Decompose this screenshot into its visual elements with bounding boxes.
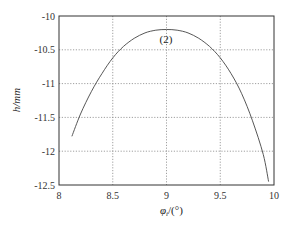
y-axis-label: h/mm: [10, 88, 22, 113]
x-tick-label: 8: [57, 190, 62, 201]
y-tick-label: -12: [42, 146, 55, 157]
x-axis-label: φi/(°): [160, 204, 183, 218]
line-chart: 88.599.510 -10-10.5-11-11.5-12-12.5 (2) …: [0, 0, 295, 229]
x-tick-label: 9.5: [214, 190, 227, 201]
y-tick-label: -11.5: [35, 112, 55, 123]
x-tick-label: 9: [164, 190, 169, 201]
data-curve: [72, 30, 269, 182]
y-tick-label: -10.5: [34, 44, 55, 55]
x-tick-label: 8.5: [107, 190, 120, 201]
y-tick-label: -12.5: [34, 180, 55, 191]
y-tick-label: -10: [42, 11, 55, 22]
y-axis-ticks: -10-10.5-11-11.5-12-12.5: [34, 11, 55, 191]
x-label-unit: /(°): [168, 204, 183, 217]
curve-annotation: (2): [160, 33, 173, 46]
y-tick-label: -11: [42, 78, 55, 89]
x-axis-ticks: 88.599.510: [57, 190, 280, 201]
x-tick-label: 10: [269, 190, 279, 201]
